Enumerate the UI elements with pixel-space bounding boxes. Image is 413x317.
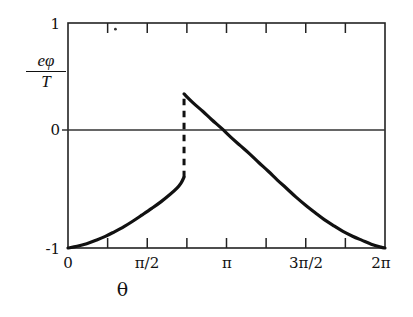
x-tick-label-0: 0 bbox=[63, 254, 73, 272]
y-axis-label: eφ T bbox=[26, 52, 66, 90]
chart-figure bbox=[0, 0, 413, 317]
y-tick-label-minus-1: -1 bbox=[36, 240, 60, 258]
y-tick-label-1: 1 bbox=[44, 15, 60, 33]
figure-background bbox=[0, 0, 413, 317]
x-tick-label-pi: π bbox=[222, 254, 232, 272]
y-axis-label-numerator: eφ bbox=[26, 52, 66, 70]
x-axis-label: θ bbox=[117, 278, 128, 300]
y-axis-label-denominator: T bbox=[26, 71, 66, 91]
x-tick-label-3pi-over-2: 3π/2 bbox=[289, 254, 323, 272]
y-tick-label-0: 0 bbox=[44, 121, 60, 139]
x-tick-label-2pi: 2π bbox=[371, 254, 390, 272]
stray-dot bbox=[114, 28, 117, 31]
x-axis-label-wrap: θ bbox=[0, 278, 413, 300]
x-tick-label-pi-over-2: π/2 bbox=[135, 254, 159, 272]
